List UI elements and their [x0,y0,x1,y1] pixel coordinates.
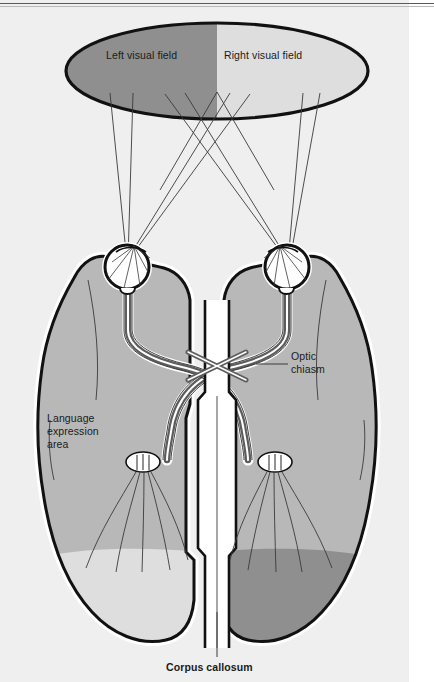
left-eye-globe [105,245,149,289]
optic-chiasm-label-line1: Optic [291,350,316,362]
eyes-group [102,242,312,294]
midline-structure-group [198,300,236,648]
right-eye-globe [265,245,309,289]
left-visual-field-label: Left visual field [106,49,177,61]
light-rays-group [110,92,320,262]
figure-root: Left visual field Right visual field Opt… [0,0,434,682]
language-expression-area-label-line1: Language [47,412,95,424]
left-occipital-region [30,549,200,660]
left-optic-disc [120,288,135,294]
right-occipital-region [214,549,386,660]
corpus-callosum-label: Corpus callosum [166,661,253,673]
light-ray [128,93,133,260]
light-ray [290,93,320,260]
right-visual-field-label: Right visual field [224,49,302,61]
language-expression-area-label-line2: expression [47,425,99,437]
light-ray [110,93,127,262]
right-optic-disc [279,288,294,294]
optic-chiasm-label-line2: chiasm [291,363,325,375]
light-ray [288,93,303,262]
visual-pathway-diagram [0,0,434,682]
language-expression-area-label-line3: area [47,438,68,450]
